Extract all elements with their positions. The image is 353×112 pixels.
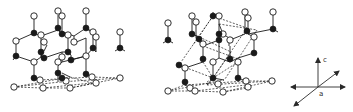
structure-right [163,9,278,95]
open-atom [117,75,123,81]
filled-atom [38,49,44,55]
filled-atom [59,31,65,37]
open-atom [37,77,43,83]
open-atom [269,78,275,84]
filled-atom [227,56,233,62]
open-atom [38,32,44,38]
c-axis-label: c [323,56,327,64]
filled-atom [182,79,188,85]
filled-atom [196,36,202,42]
open-atom [215,81,221,87]
open-atom [165,20,171,26]
open-atom [117,29,123,35]
crystal-structure-diagram: c a [0,0,353,112]
open-atom [242,9,248,15]
filled-atom [235,75,241,81]
open-atom [83,53,89,59]
open-atom [89,74,95,80]
open-atom [189,13,195,19]
filled-atom [83,71,89,77]
filled-atom [270,26,276,32]
open-atom [245,15,251,21]
open-atom [210,59,216,65]
filled-atom [251,50,257,56]
open-atom [192,88,198,94]
open-atom [165,88,171,94]
open-atom [245,84,251,90]
filled-atom [189,31,195,37]
open-atom [11,84,17,90]
filled-atom [216,37,222,43]
open-atom [251,34,257,40]
open-atom [216,13,222,19]
open-atom [40,85,46,91]
filled-atom [65,49,71,55]
filled-atom [200,56,206,62]
open-atom [270,9,276,15]
open-atom [243,78,249,84]
filled-atom [68,57,74,63]
isolated-unit-right [163,20,173,43]
open-atom [59,13,65,19]
filled-atom [210,13,216,19]
open-atom [93,34,99,40]
open-atom [31,59,37,65]
open-atom [13,38,19,44]
open-atom [71,39,77,45]
open-atom [235,59,241,65]
diagonal-axis-down-arrow [294,87,318,106]
filled-atom [55,70,61,76]
a-axis-label: a [319,90,323,98]
filled-atom [31,30,37,36]
open-atom [220,89,226,95]
open-atom [182,65,188,71]
filled-atom [210,75,216,81]
filled-atom [59,75,65,81]
open-atom [31,13,37,19]
open-atom [227,37,233,43]
crystal-axes: c a [291,56,345,106]
filled-atom [41,55,47,61]
open-atom [41,39,47,45]
filled-atom [244,28,250,34]
filled-atom [176,62,182,68]
filled-atom [55,25,61,31]
filled-atom [31,75,37,81]
open-atom [193,19,199,25]
atoms-right [165,9,276,95]
filled-atom [90,45,96,51]
open-atom [55,59,61,65]
open-atom [67,85,73,91]
bonds-left [13,10,125,82]
open-atom [93,80,99,86]
filled-atom [13,53,19,59]
filled-atom [165,37,171,43]
structure-left [11,8,125,91]
filled-atom [216,31,222,37]
open-atom [65,32,71,38]
open-atom [83,8,89,14]
filled-atom [117,45,123,51]
filled-atom [83,25,89,31]
diagonal-axis-up-arrow [318,71,339,87]
